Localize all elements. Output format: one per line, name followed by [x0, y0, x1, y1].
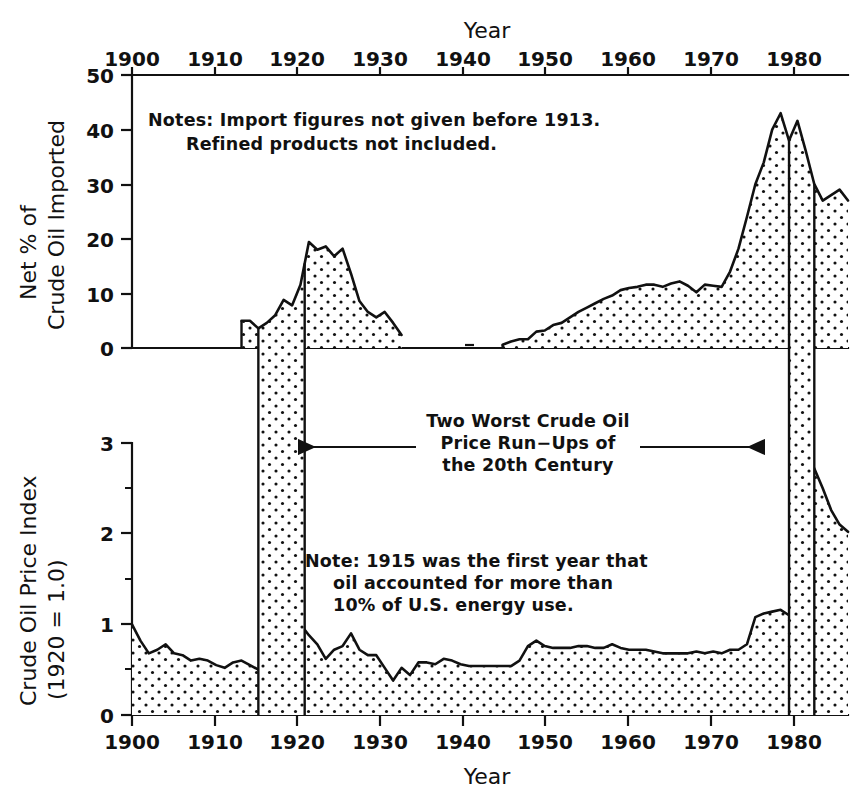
bottom-axis-title: Year — [463, 764, 512, 789]
bottom-ylabel-line1: Crude Oil Price Index — [16, 475, 41, 706]
bottom-xtick-label: 1920 — [269, 730, 325, 754]
bottom-xtick-label: 1960 — [600, 730, 656, 754]
top-ytick-label: 40 — [86, 119, 114, 143]
top-ytick-label: 30 — [86, 174, 114, 198]
bottom-xtick-label: 1900 — [104, 730, 160, 754]
figure-root: Year 1900 1910 1920 1930 1940 1950 1960 … — [0, 0, 866, 792]
bottom-xtick-label: 1980 — [766, 730, 822, 754]
bottom-xtick-label: 1940 — [435, 730, 491, 754]
bottom-xtick-label: 1910 — [187, 730, 243, 754]
bottom-xtick-label: 1950 — [517, 730, 573, 754]
bottom-ylabel-line2: (1920 = 1.0) — [44, 559, 69, 700]
bottom-note-line-3: 10% of U.S. energy use. — [333, 595, 574, 615]
top-ytick-label: 20 — [86, 228, 114, 252]
top-ytick-label: 50 — [86, 64, 114, 88]
top-ytick-label: 10 — [86, 283, 114, 307]
highlight-band-first-run-up — [258, 348, 304, 715]
bottom-ytick-label: 2 — [100, 522, 114, 546]
top-ytick-label: 0 — [100, 337, 114, 361]
bottom-ytick-label: 3 — [100, 432, 114, 456]
bottom-note-line-2: oil accounted for more than — [333, 573, 613, 593]
top-axis-title: Year — [463, 18, 512, 43]
annotation-line-3: the 20th Century — [442, 455, 614, 475]
top-ylabel-line1: Net % of — [16, 204, 41, 300]
bottom-ytick-label: 1 — [100, 613, 114, 637]
bottom-xtick-labels: 1900 1910 1920 1930 1940 1950 1960 1970 … — [104, 730, 822, 754]
top-note-line-1: Notes: Import figures not given before 1… — [148, 110, 600, 130]
bottom-xtick-label: 1930 — [352, 730, 408, 754]
top-ylabel-line2: Crude Oil Imported — [44, 120, 69, 330]
bottom-xtick-label: 1970 — [683, 730, 739, 754]
annotation-line-2: Price Run−Ups of — [441, 433, 616, 453]
highlight-band-second-run-up — [789, 348, 814, 715]
top-note-line-2: Refined products not included. — [186, 134, 497, 154]
dual-panel-chart: Year 1900 1910 1920 1930 1940 1950 1960 … — [0, 0, 866, 792]
annotation-line-1: Two Worst Crude Oil — [426, 411, 630, 431]
bottom-ytick-label: 0 — [100, 704, 114, 728]
bottom-note-line-1: Note: 1915 was the first year that — [305, 551, 648, 571]
